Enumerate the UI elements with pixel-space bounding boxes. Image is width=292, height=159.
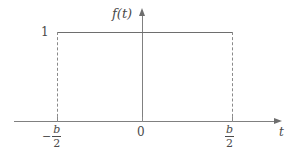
fraction-numerator: b: [225, 124, 234, 136]
fraction-denominator: 2: [225, 138, 234, 150]
x-tick-label-neg-b-over-2: − b 2: [42, 124, 61, 149]
y-tick-label-one: 1: [41, 26, 49, 38]
y-axis-label: f(t): [112, 7, 132, 20]
pulse-function-figure: f(t) 1 0 t − b 2 b 2: [0, 0, 292, 159]
fraction-b-over-2: b 2: [225, 124, 234, 149]
pulse-plateau-segment: [57, 32, 232, 33]
dashed-line-left-edge: [57, 32, 58, 122]
fraction-numerator: b: [52, 124, 61, 136]
y-axis-line: [142, 14, 143, 122]
dashed-line-right-edge: [232, 32, 233, 122]
x-tick-label-pos-b-over-2: b 2: [225, 124, 234, 149]
x-tick-mark-pos-b-over-2: [232, 117, 233, 122]
x-axis-arrow-icon: [274, 118, 282, 124]
x-axis-label: t: [279, 126, 284, 138]
fraction-b-over-2: b 2: [52, 124, 61, 149]
origin-label: 0: [137, 126, 145, 138]
x-axis-line: [14, 121, 278, 122]
fraction-denominator: 2: [52, 138, 61, 150]
minus-sign: −: [42, 130, 51, 143]
x-tick-mark-neg-b-over-2: [57, 117, 58, 122]
y-axis-arrow-icon: [139, 8, 145, 16]
x-tick-mark-origin: [142, 117, 143, 122]
